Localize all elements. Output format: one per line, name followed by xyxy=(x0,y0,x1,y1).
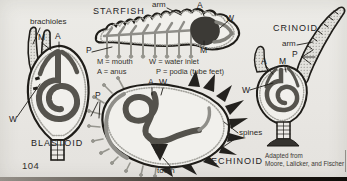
blastoid-title: BLASTOID xyxy=(31,139,83,148)
crinoid-title: CRINOID xyxy=(273,24,318,33)
legend-anus: A = anus xyxy=(97,68,126,76)
starfish-mouth-label: M xyxy=(200,46,207,55)
echinoid-tooth-label: tooth xyxy=(157,167,175,175)
legend-mouth: M = mouth xyxy=(97,58,133,66)
crinoid-holdfast xyxy=(267,139,299,146)
blastoid-water-inlet-label: W xyxy=(9,115,17,124)
blastoid-brachioles-label: brachioles xyxy=(30,18,66,26)
blastoid-mouth-label: M xyxy=(38,33,45,42)
legend-water-inlet: W = water inlet xyxy=(149,58,199,66)
echinoid-spines-label: spines xyxy=(239,129,262,137)
crinoid-podia-label: P xyxy=(292,50,298,59)
starfish-arm-label: arm xyxy=(152,1,166,9)
textbook-figure-page: brachioles M A W BLASTOID 104 STARFISH a… xyxy=(0,0,347,181)
crinoid-stalk xyxy=(267,122,299,146)
echinoid-title: ECHINOID xyxy=(211,157,263,166)
starfish-water-inlet-label: W xyxy=(226,14,234,23)
echinoid-mouth-label: M xyxy=(154,143,160,150)
page-bottom-shadow-bar xyxy=(0,177,347,181)
page-edge-artifact xyxy=(345,150,346,172)
echinoid-podia-label: P xyxy=(95,91,101,100)
crinoid-anus-label: A xyxy=(261,57,267,66)
legend-podia: P = podia (tube feet) xyxy=(156,68,224,76)
crinoid-arm-label: arm xyxy=(282,40,296,48)
echinoid-anus-label: A xyxy=(148,78,154,87)
page-number: 104 xyxy=(22,161,39,171)
starfish-podia-label: P xyxy=(86,46,92,55)
starfish-title: STARFISH xyxy=(93,7,145,16)
blastoid-anus-label: A xyxy=(55,32,61,41)
credit-line-2: Moore, Lalicker, and Fischer xyxy=(265,160,344,167)
starfish-anus-label: A xyxy=(197,1,203,10)
echinoid-water-inlet-label: W xyxy=(159,78,167,87)
credit-line-1: Adapted from xyxy=(265,152,303,159)
crinoid-mouth-label: M xyxy=(279,57,286,66)
crinoid-water-inlet-label: W xyxy=(242,86,250,95)
crinoid-arm xyxy=(295,7,345,84)
